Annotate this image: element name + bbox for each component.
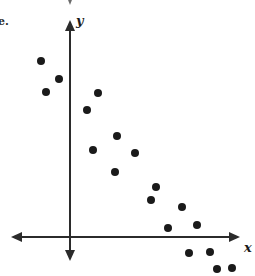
scatter-point [42, 88, 50, 96]
scatter-point [113, 132, 121, 140]
clipped-arrowhead-icon [65, 0, 75, 5]
scatter-point [193, 221, 201, 229]
scatter-point [147, 196, 155, 204]
scatter-point [37, 57, 45, 65]
scatter-point [111, 168, 119, 176]
scatter-point [131, 149, 139, 157]
scatter-plot-figure: e. y x [0, 0, 255, 276]
scatter-point [55, 75, 63, 83]
scatter-point [228, 264, 236, 272]
scatter-point [164, 224, 172, 232]
scatter-point [178, 203, 186, 211]
x-axis [11, 232, 240, 242]
scatter-point [83, 106, 91, 114]
plot-canvas [0, 0, 255, 276]
scatter-point [152, 183, 160, 191]
x-axis-right-arrowhead-icon [229, 232, 240, 242]
scatter-point [213, 265, 221, 273]
scatter-point [89, 146, 97, 154]
x-axis-label: x [244, 241, 252, 254]
y-axis [65, 20, 75, 261]
y-axis-up-arrowhead-icon [65, 20, 75, 31]
y-axis-down-arrowhead-icon [65, 250, 75, 261]
scatter-point [206, 248, 214, 256]
scatter-point [94, 89, 102, 97]
y-axis-label: y [76, 14, 84, 27]
scatter-point [185, 249, 193, 257]
x-axis-left-arrowhead-icon [11, 232, 22, 242]
scatter-points-group [37, 57, 236, 273]
